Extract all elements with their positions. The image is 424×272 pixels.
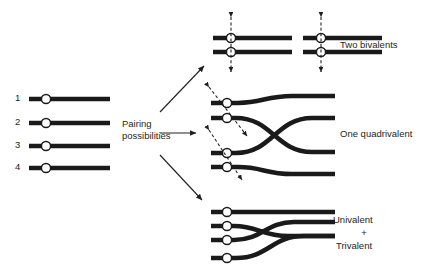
parental-chromosome-bars xyxy=(29,99,110,168)
chromosome-number-3: 3 xyxy=(15,139,20,150)
outcome-label-trivalent: Trivalent xyxy=(336,240,372,251)
univalent-trivalent-group xyxy=(211,212,335,258)
univalent-trivalent-centromeres xyxy=(222,207,231,262)
outcome-label-one-quadrivalent: One quadrivalent xyxy=(340,128,412,139)
one-quadrivalent-group xyxy=(211,96,335,174)
chromosome-number-1: 1 xyxy=(15,92,20,103)
pairing-label-line2: possibilities xyxy=(122,130,171,141)
chromosome-number-2: 2 xyxy=(15,116,20,127)
diagram-canvas: 1 2 3 4 Pairing possibilities Two bivale… xyxy=(0,0,424,272)
parental-centromeres xyxy=(41,94,50,172)
pairing-label-line1: Pairing xyxy=(122,118,152,129)
outcome-label-two-bivalents: Two bivalents xyxy=(340,39,398,50)
chromosome-number-4: 4 xyxy=(15,161,20,172)
outcome-label-univalent: Univalent xyxy=(333,214,373,225)
outcome-label-plus: + xyxy=(333,227,395,238)
